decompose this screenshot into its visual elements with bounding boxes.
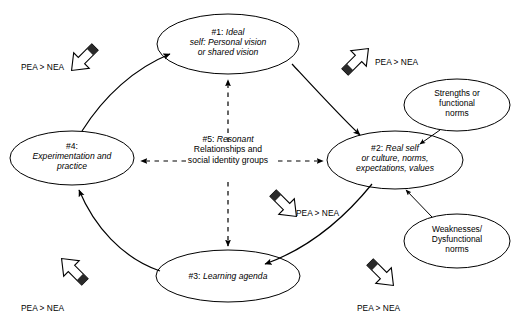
arrow-weaknesses-to-real-self: [406, 190, 432, 217]
node-ellipse-real-self[interactable]: [327, 131, 463, 189]
block-arrow-pea-top-right: [337, 41, 376, 80]
node-ellipse-learning-agenda[interactable]: [156, 250, 300, 302]
block-arrow-pea-middle-right: [265, 185, 304, 224]
flow-arrow-ideal-to-real: [292, 64, 360, 135]
block-arrow-pea-bottom-left: [54, 251, 93, 290]
node-ellipse-experimentation-and-practice[interactable]: [10, 131, 134, 185]
node-ellipse-strengths-functional-norms[interactable]: [404, 79, 510, 131]
block-arrow-pea-top-left: [64, 39, 103, 78]
node-ellipse-weaknesses-dysfunctional-norms[interactable]: [404, 214, 510, 268]
block-arrow-pea-bottom-right: [362, 254, 401, 293]
flow-arrow-learning-to-experimentation: [79, 190, 160, 271]
diagram-canvas: #1: Ideal self: Personal vision or share…: [0, 0, 514, 325]
flow-arrow-experimentation-to-ideal: [82, 54, 170, 131]
node-ellipse-ideal-self[interactable]: [157, 14, 299, 74]
diagram-graphics: [0, 0, 514, 325]
